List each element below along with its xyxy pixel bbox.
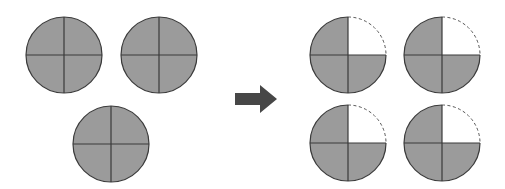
shaded-quarter (73, 106, 111, 144)
shaded-quarter (64, 55, 102, 93)
empty-quarter (348, 105, 386, 143)
shaded-quarter (310, 55, 348, 93)
shaded-quarter (310, 17, 348, 55)
shaded-quarter (404, 105, 442, 143)
shaded-quarter (64, 17, 102, 55)
fraction-diagram (0, 0, 505, 189)
shaded-quarter (348, 55, 386, 93)
shaded-quarter (111, 144, 149, 182)
three-quarter-circle (310, 17, 386, 93)
shaded-quarter (442, 143, 480, 181)
shaded-quarter (121, 55, 159, 93)
shaded-quarter (404, 143, 442, 181)
whole-circle (73, 106, 149, 182)
empty-quarter (348, 17, 386, 55)
empty-quarter (442, 17, 480, 55)
empty-quarter (442, 105, 480, 143)
transform-arrow (235, 85, 277, 113)
shaded-quarter (404, 17, 442, 55)
after-group (310, 17, 480, 181)
shaded-quarter (442, 55, 480, 93)
shaded-quarter (310, 143, 348, 181)
shaded-quarter (404, 55, 442, 93)
shaded-quarter (159, 55, 197, 93)
shaded-quarter (26, 17, 64, 55)
shaded-quarter (111, 106, 149, 144)
shaded-quarter (310, 105, 348, 143)
three-quarter-circle (404, 17, 480, 93)
shaded-quarter (26, 55, 64, 93)
three-quarter-circle (404, 105, 480, 181)
shaded-quarter (121, 17, 159, 55)
shaded-quarter (73, 144, 111, 182)
whole-circle (121, 17, 197, 93)
shaded-quarter (348, 143, 386, 181)
before-group (26, 17, 197, 182)
three-quarter-circle (310, 105, 386, 181)
whole-circle (26, 17, 102, 93)
right-arrow-icon (235, 85, 277, 113)
shaded-quarter (159, 17, 197, 55)
